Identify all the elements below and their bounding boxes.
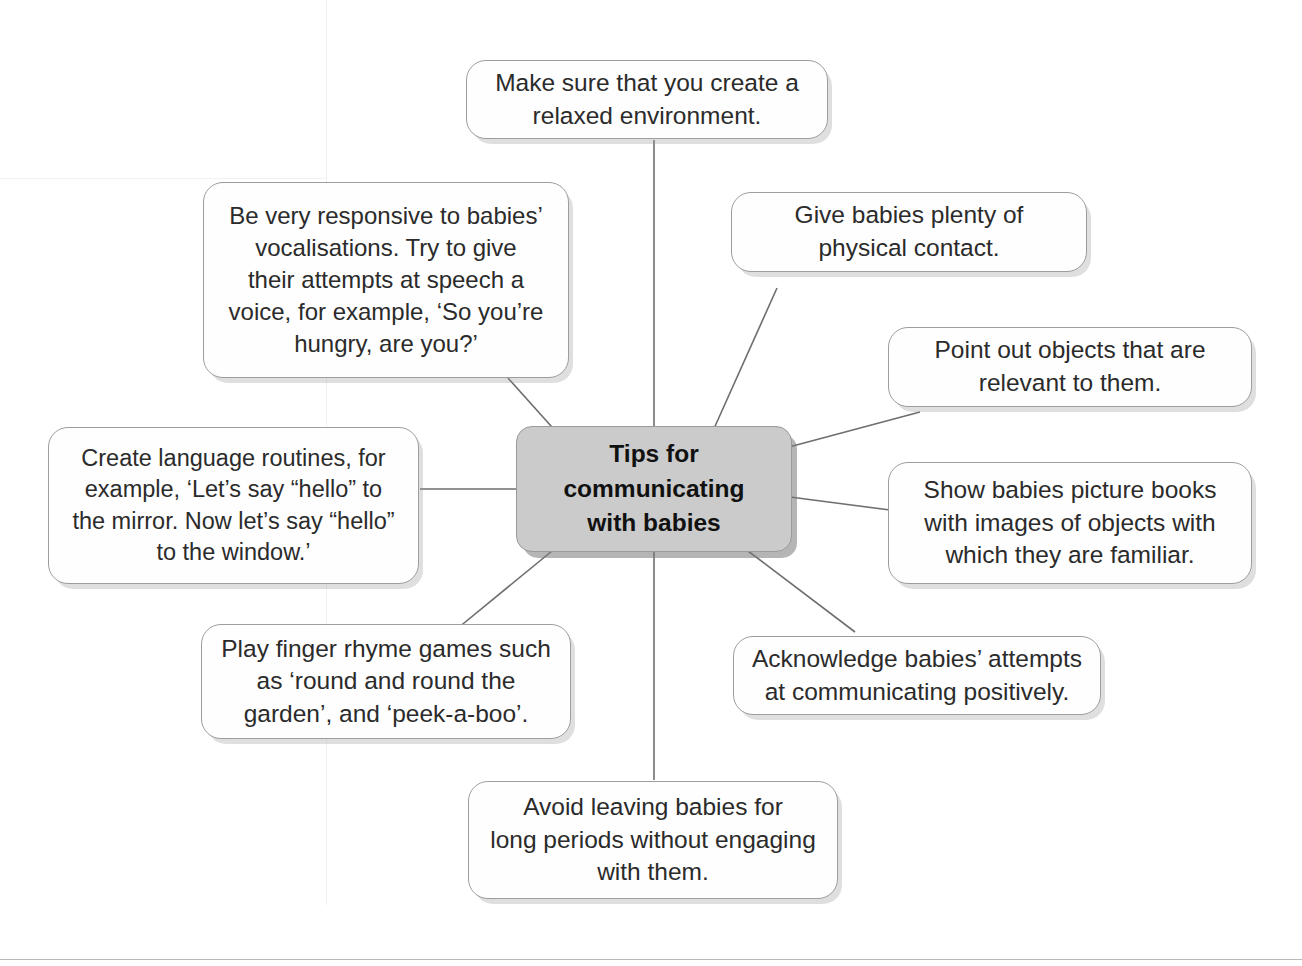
branch-node-point-out-objects[interactable]: Point out objects that are relevant to t… [888,327,1252,407]
branch-node-responsive-vocalisations[interactable]: Be very responsive to babies’ vocalisati… [203,182,569,378]
branch-label-finger-rhyme-games: Play finger rhyme games such as ‘round a… [218,633,554,731]
connector-point-out-objects [789,412,920,447]
branch-label-responsive-vocalisations: Be very responsive to babies’ vocalisati… [220,200,552,360]
branch-node-relaxed-environment[interactable]: Make sure that you create a relaxed envi… [466,60,828,139]
branch-label-picture-books: Show babies picture books with images of… [905,474,1235,572]
branch-label-relaxed-environment: Make sure that you create a relaxed envi… [483,67,811,132]
branch-label-physical-contact: Give babies plenty of physical contact. [748,199,1070,264]
connector-finger-rhyme-games [458,551,552,628]
central-node[interactable]: Tips for communicating with babies [516,426,792,552]
branch-label-avoid-leaving-babies: Avoid leaving babies for long periods wi… [485,791,821,889]
branch-label-point-out-objects: Point out objects that are relevant to t… [905,334,1235,399]
branch-node-language-routines[interactable]: Create language routines, for example, ‘… [48,427,419,584]
connector-picture-books [790,497,890,510]
branch-node-finger-rhyme-games[interactable]: Play finger rhyme games such as ‘round a… [201,624,571,739]
page-bottom-edge [0,959,1302,960]
mind-map-page: Tips for communicating with babies Make … [0,0,1302,966]
connector-acknowledge-attempts [748,551,855,632]
branch-label-acknowledge-attempts: Acknowledge babies’ attempts at communic… [750,643,1084,708]
branch-label-language-routines: Create language routines, for example, ‘… [59,443,408,568]
branch-node-avoid-leaving-babies[interactable]: Avoid leaving babies for long periods wi… [468,781,838,899]
branch-node-acknowledge-attempts[interactable]: Acknowledge babies’ attempts at communic… [733,636,1101,715]
connector-physical-contact [712,288,777,433]
branch-node-physical-contact[interactable]: Give babies plenty of physical contact. [731,192,1087,272]
branch-node-picture-books[interactable]: Show babies picture books with images of… [888,462,1252,584]
central-node-label: Tips for communicating with babies [533,437,775,541]
